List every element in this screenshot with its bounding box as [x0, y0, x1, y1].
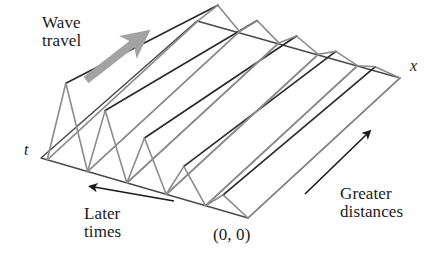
- surface-edge: [223, 67, 375, 195]
- axis-label-x: x: [410, 57, 417, 74]
- surface-edge: [66, 83, 88, 171]
- surface-edge: [47, 83, 66, 160]
- wave-travel-figure: Wavetravel Latertimes Greaterdistances (…: [0, 0, 439, 273]
- surface-edge: [145, 36, 297, 138]
- origin-label: (0, 0): [213, 226, 250, 244]
- axis-label-t: t: [24, 141, 29, 158]
- surface-edge: [105, 111, 127, 183]
- greater-distances-label: Greaterdistances: [340, 185, 403, 222]
- surface-edge: [358, 66, 376, 67]
- surface-edge: [206, 66, 358, 206]
- wave-travel-arrow: [86, 41, 136, 80]
- later-times-label: Latertimes: [84, 205, 121, 242]
- annotation-arrows: [86, 41, 367, 201]
- surface-edge: [240, 21, 258, 32]
- surface-edge: [127, 138, 145, 183]
- surface-edge: [145, 138, 167, 194]
- surface-edge: [127, 43, 279, 183]
- later-times-arrow: [94, 187, 174, 201]
- wave-travel-label: Wavetravel: [42, 14, 81, 51]
